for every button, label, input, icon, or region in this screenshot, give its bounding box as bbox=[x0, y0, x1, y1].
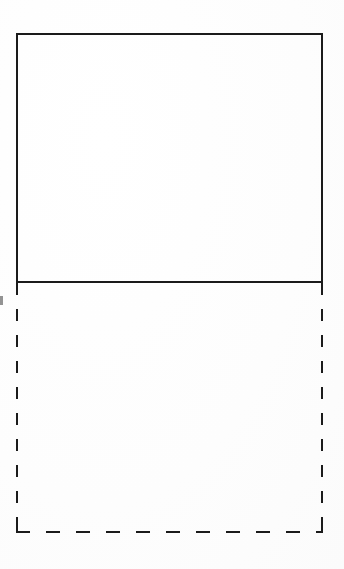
upper-solid-rectangle bbox=[16, 33, 323, 283]
dashed-left-edge bbox=[16, 283, 18, 533]
dashed-bottom-right-corner bbox=[321, 521, 323, 533]
dashed-right-edge bbox=[321, 283, 323, 533]
lower-dashed-rectangle bbox=[16, 283, 323, 533]
figure-canvas bbox=[0, 0, 344, 569]
dashed-bottom-left-corner bbox=[16, 521, 18, 533]
left-margin-scan-fragment bbox=[0, 296, 3, 305]
dashed-bottom-edge bbox=[16, 531, 323, 533]
